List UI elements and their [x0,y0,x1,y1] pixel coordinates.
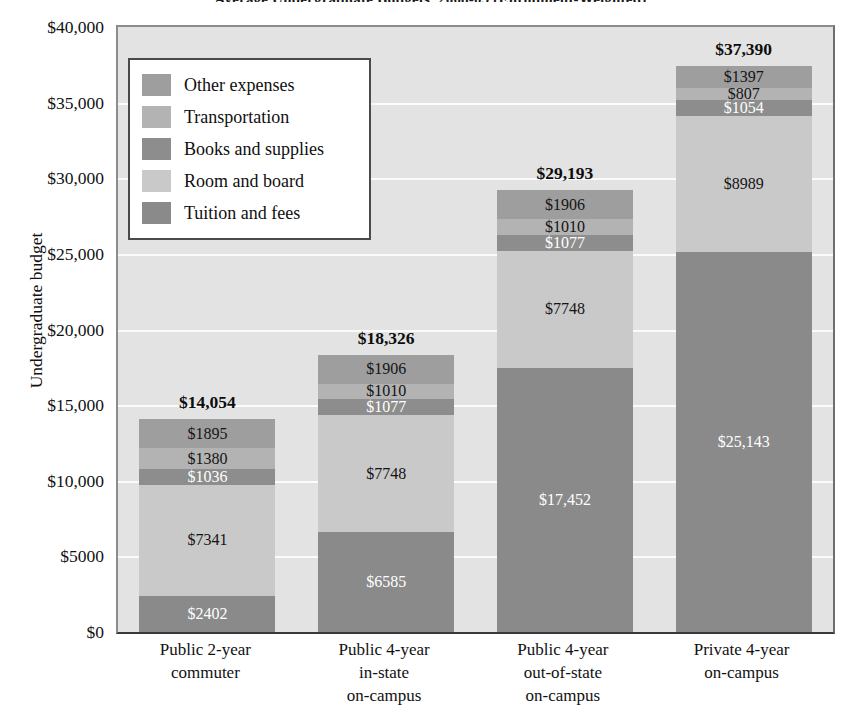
x-axis-category-labels: Public 2-yearcommuterPublic 4-yearin-sta… [116,638,835,713]
legend-item-label: Transportation [184,107,289,128]
bar-segment[interactable]: $1906 [497,190,633,219]
bar-segment-label: $7748 [366,466,406,482]
bar-segment[interactable]: $7748 [318,415,454,532]
x-axis-label-line: on-campus [289,684,479,707]
x-axis-category-label: Public 4-yearout-of-stateon-campus [468,638,658,707]
legend-item[interactable]: Room and board [142,165,359,197]
chart-legend: Other expensesTransportationBooks and su… [128,58,371,240]
legend-item-label: Room and board [184,171,304,192]
bar-segment[interactable]: $1054 [676,100,812,116]
y-axis-tick-label: $25,000 [47,243,104,264]
bar-segment[interactable]: $807 [676,88,812,100]
y-axis-tick-label: $35,000 [47,92,104,113]
bar-segment[interactable]: $1397 [676,66,812,87]
chart-title: Average Undergraduate Budgets, 2008-09 (… [0,0,861,2]
legend-swatch-icon [142,138,171,160]
legend-swatch-icon [142,106,171,128]
x-axis-label-line: in-state [289,661,479,684]
bar-group[interactable]: $2402$7341$1036$1380$1895$14,054 [139,419,275,632]
x-axis-label-line: commuter [110,661,300,684]
bar-segment[interactable]: $6585 [318,532,454,632]
bar-segment-label: $1906 [366,361,406,377]
bar-segment-label: $1010 [545,219,585,235]
bar-segment-label: $1077 [366,399,406,415]
bar-segment-label: $17,452 [539,492,591,508]
bar-segment[interactable]: $1906 [318,355,454,384]
legend-swatch-icon [142,74,171,96]
x-axis-label-line: Public 4-year [289,638,479,661]
bar-group[interactable]: $25,143$8989$1054$807$1397$37,390 [676,66,812,632]
legend-item[interactable]: Other expenses [142,69,359,101]
bar-segment-label: $2402 [187,606,227,622]
bar-segment-label: $6585 [366,574,406,590]
legend-item-label: Tuition and fees [184,203,300,224]
bar-segment[interactable]: $1010 [318,384,454,399]
bar-segment-label: $7748 [545,301,585,317]
y-axis-tick-labels: $0$5000$10,000$15,000$20,000$25,000$30,0… [0,25,110,634]
bar-segment[interactable]: $2402 [139,596,275,632]
bar-total-label: $37,390 [649,39,833,60]
x-axis-label-line: Public 4-year [468,638,658,661]
y-axis-tick-label: $40,000 [47,17,104,38]
bar-segment-label: $25,143 [718,434,770,450]
legend-item-label: Other expenses [184,75,294,96]
bar-total-label: $14,054 [118,392,302,413]
y-axis-tick-label: $10,000 [47,470,104,491]
y-axis-tick-label: $30,000 [47,168,104,189]
x-axis-category-label: Private 4-yearon-campus [647,638,837,684]
bar-segment[interactable]: $1895 [139,419,275,448]
bar-segment[interactable]: $1010 [497,219,633,234]
bar-segment-label: $7341 [187,532,227,548]
y-axis-tick-label: $20,000 [47,319,104,340]
y-axis-tick-label: $5000 [60,546,104,567]
legend-item[interactable]: Books and supplies [142,133,359,165]
y-axis-tick-label: $15,000 [47,395,104,416]
legend-item-label: Books and supplies [184,139,324,160]
bar-segment[interactable]: $17,452 [497,368,633,632]
x-axis-label-line: out-of-state [468,661,658,684]
y-axis-tick-label: $0 [87,622,105,643]
bar-segment[interactable]: $1077 [497,235,633,251]
bar-segment-label: $1895 [187,426,227,442]
bar-segment-label: $807 [728,86,760,102]
bar-group[interactable]: $17,452$7748$1077$1010$1906$29,193 [497,190,633,632]
legend-swatch-icon [142,202,171,224]
bar-group[interactable]: $6585$7748$1077$1010$1906$18,326 [318,355,454,632]
legend-item[interactable]: Tuition and fees [142,197,359,229]
bar-total-label: $18,326 [291,328,481,349]
bar-segment[interactable]: $7341 [139,485,275,596]
bar-total-label: $29,193 [470,163,660,184]
bar-segment-label: $1054 [724,100,764,116]
bar-segment-label: $8989 [724,176,764,192]
legend-swatch-icon [142,170,171,192]
bar-segment[interactable]: $7748 [497,251,633,368]
bar-segment[interactable]: $1077 [318,399,454,415]
bar-segment[interactable]: $1036 [139,469,275,485]
bar-segment[interactable]: $25,143 [676,252,812,632]
bar-segment-label: $1010 [366,383,406,399]
x-axis-label-line: on-campus [647,661,837,684]
bar-segment-label: $1380 [187,451,227,467]
x-axis-label-line: Public 2-year [110,638,300,661]
x-axis-label-line: on-campus [468,684,658,707]
x-axis-category-label: Public 2-yearcommuter [110,638,300,684]
bar-segment-label: $1036 [187,469,227,485]
bar-segment[interactable]: $8989 [676,116,812,252]
bar-segment-label: $1077 [545,235,585,251]
bar-segment-label: $1397 [724,69,764,85]
legend-item[interactable]: Transportation [142,101,359,133]
x-axis-category-label: Public 4-yearin-stateon-campus [289,638,479,707]
stacked-bar-chart: Average Undergraduate Budgets, 2008-09 (… [0,0,861,713]
x-axis-label-line: Private 4-year [647,638,837,661]
bar-segment[interactable]: $1380 [139,448,275,469]
bar-segment-label: $1906 [545,197,585,213]
